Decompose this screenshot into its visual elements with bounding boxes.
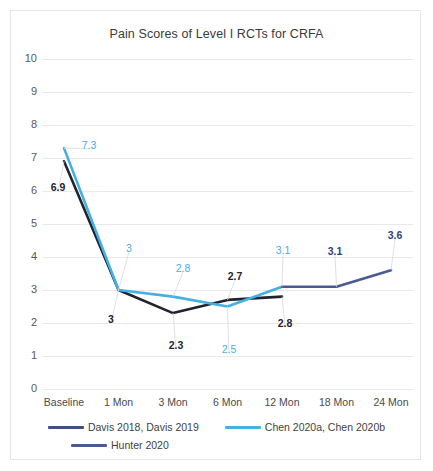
legend-row-secondary: Hunter 2020 — [11, 439, 421, 451]
series-line — [64, 161, 282, 313]
label-leader-line — [119, 252, 130, 290]
series-lines — [11, 11, 421, 460]
data-point-label: 7.3 — [82, 139, 97, 151]
data-point-label: 3.1 — [276, 244, 291, 256]
legend-swatch-chen — [225, 426, 261, 429]
data-point-label: 2.5 — [222, 343, 237, 355]
legend-swatch-davis — [48, 426, 84, 429]
label-leader-line — [173, 272, 183, 297]
data-point-label: 3.1 — [328, 245, 343, 257]
label-leader-line — [391, 239, 395, 270]
data-point-label: 3 — [126, 242, 132, 254]
plot-area: 109876543210 Baseline1 Mon3 Mon6 Mon12 M… — [11, 11, 421, 460]
label-leader-line — [282, 254, 283, 287]
legend-label-chen: Chen 2020a, Chen 2020b — [265, 421, 385, 433]
label-leader-line — [228, 280, 236, 300]
data-point-label: 2.3 — [169, 339, 184, 351]
data-point-label: 2.7 — [228, 270, 243, 282]
data-point-label: 2.8 — [278, 317, 293, 329]
data-point-label: 2.8 — [176, 262, 191, 274]
legend-row-primary: Davis 2018, Davis 2019 Chen 2020a, Chen … — [11, 421, 421, 433]
legend-label-hunter: Hunter 2020 — [111, 439, 169, 451]
legend-swatch-hunter — [71, 444, 107, 447]
data-point-label: 3.6 — [388, 229, 403, 241]
legend-item-davis[interactable]: Davis 2018, Davis 2019 — [48, 421, 199, 433]
label-leader-line — [335, 255, 337, 287]
data-point-label: 6.9 — [51, 181, 66, 193]
legend-item-chen[interactable]: Chen 2020a, Chen 2020b — [225, 421, 385, 433]
data-point-label: 3 — [108, 313, 114, 325]
legend-label-davis: Davis 2018, Davis 2019 — [88, 421, 199, 433]
chart-legend: Davis 2018, Davis 2019 Chen 2020a, Chen … — [11, 415, 421, 451]
legend-item-hunter[interactable]: Hunter 2020 — [71, 439, 169, 451]
series-line — [64, 148, 282, 306]
chart-card: Pain Scores of Level I RCTs for CRFA 109… — [10, 10, 421, 460]
